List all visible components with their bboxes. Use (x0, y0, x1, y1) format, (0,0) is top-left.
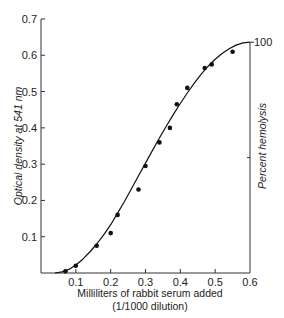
data-point (63, 269, 68, 274)
axes (41, 19, 254, 273)
tick-marks: 0.10.20.30.40.50.60.70.10.20.30.40.50.6 (22, 13, 258, 288)
data-point (157, 140, 162, 145)
x-axis-title: Milliliters of rabbit serum added (77, 287, 222, 299)
right-axis-title: Percent hemolysis (256, 102, 268, 189)
data-point (115, 213, 120, 218)
y-tick-label: 0.7 (22, 13, 37, 25)
data-point (202, 66, 207, 71)
right-axis-tick-100: 100 (254, 36, 272, 48)
hemolysis-chart: 0.10.20.30.40.50.60.70.10.20.30.40.50.6 … (0, 0, 284, 318)
data-point (74, 263, 79, 268)
x-tick-label: 0.6 (242, 276, 257, 288)
fitted-curve (55, 42, 250, 273)
y-tick-label: 0.1 (22, 231, 37, 243)
data-point (136, 187, 141, 192)
y-tick-label: 0.6 (22, 49, 37, 61)
data-point (143, 164, 148, 169)
data-point (209, 62, 214, 67)
x-axis-subtitle: (1/1000 dilution) (112, 300, 187, 312)
data-point (168, 126, 173, 131)
y-axis-title: Optical density at 541 nm (12, 87, 24, 206)
data-point (230, 49, 235, 54)
data-point (108, 231, 113, 236)
data-point (94, 244, 99, 249)
data-points (63, 49, 235, 273)
data-point (185, 86, 190, 91)
data-point (175, 102, 180, 107)
